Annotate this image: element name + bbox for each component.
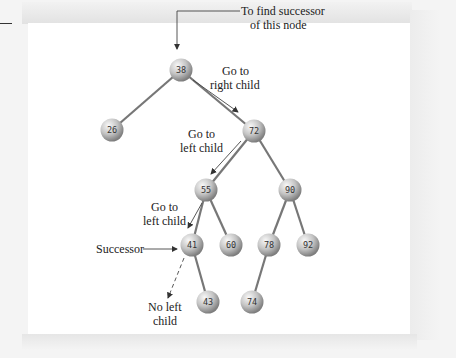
tree-node-26: 26 (101, 119, 124, 142)
node-value: 60 (226, 240, 236, 250)
tree-node-43: 43 (197, 291, 220, 314)
tree-node-60: 60 (220, 234, 243, 257)
start-label-line1: To find successor (241, 4, 325, 18)
node-value: 55 (201, 185, 211, 195)
edge-38-26 (112, 70, 181, 130)
no-left-label-line1: No left (148, 300, 182, 314)
start-label-line2: of this node (250, 18, 307, 32)
tree-node-74: 74 (241, 291, 264, 314)
right-label-line1: Go to (222, 64, 249, 78)
tree-diagram: 3826725590416078924374 To find successor… (0, 0, 456, 358)
node-value: 90 (285, 185, 295, 195)
no-left-label-line2: child (153, 314, 177, 328)
tree-node-55: 55 (195, 179, 218, 202)
tree-nodes: 3826725590416078924374 (101, 59, 320, 314)
node-value: 43 (203, 297, 213, 307)
tree-node-72: 72 (243, 120, 266, 143)
no-left-child-arrow (168, 258, 184, 298)
left2-label-line1: Go to (151, 200, 178, 214)
node-value: 26 (107, 125, 117, 135)
tree-node-90: 90 (279, 179, 302, 202)
node-value: 72 (249, 126, 259, 136)
left1-label-line2: left child (180, 141, 223, 155)
left1-label-line1: Go to (188, 127, 215, 141)
tree-node-41: 41 (181, 234, 204, 257)
node-value: 78 (264, 240, 274, 250)
node-value: 92 (303, 240, 313, 250)
right-label-line2: right child (210, 78, 260, 92)
left2-label-line2: left child (143, 214, 186, 228)
tree-node-78: 78 (258, 234, 281, 257)
node-value: 74 (247, 297, 257, 307)
node-value: 41 (187, 240, 197, 250)
node-value: 38 (176, 65, 186, 75)
tree-node-92: 92 (297, 234, 320, 257)
start-arrow (177, 11, 240, 49)
tree-node-38: 38 (170, 59, 193, 82)
successor-label: Successor (96, 242, 144, 256)
